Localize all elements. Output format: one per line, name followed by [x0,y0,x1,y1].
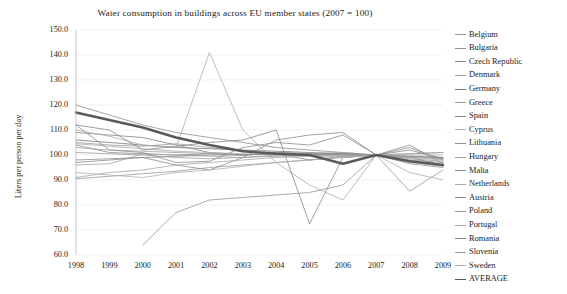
legend-item[interactable]: Cyprus [455,123,567,137]
legend-line-icon [455,75,466,76]
legend-label: Sweden [469,262,496,270]
series-lines [76,53,443,246]
legend-line-icon [455,143,466,144]
legend-label: Romania [469,235,499,243]
legend-label: Poland [469,207,492,215]
legend-line-icon [455,170,466,171]
y-tick-label: 110.0 [26,125,68,134]
legend-item[interactable]: Denmark [455,69,567,83]
legend-item[interactable]: Austria [455,191,567,205]
y-tick-label: 60.0 [26,250,68,259]
legend-line-icon [455,279,466,280]
legend-line-icon [455,157,466,158]
legend-line-icon [455,225,466,226]
legend-item[interactable]: Czech Republic [455,55,567,69]
y-tick-label: 80.0 [26,200,68,209]
legend-line-icon [455,116,466,117]
legend-label: Austria [469,194,494,202]
legend-item[interactable]: Greece [455,96,567,110]
legend-line-icon [455,265,466,266]
legend-label: Germany [469,85,500,93]
series-line [76,53,443,201]
legend-item[interactable]: Lithuania [455,137,567,151]
gridlines [76,30,443,255]
legend-label: Spain [469,112,488,120]
legend-line-icon [455,252,466,253]
y-tick-label: 130.0 [26,75,68,84]
legend-line-icon [455,61,466,62]
legend-label: Malta [469,167,489,175]
legend-line-icon [455,184,466,185]
legend-label: AVERAGE [469,275,508,283]
legend-line-icon [455,102,466,103]
chart-title: Water consumption in buildings across EU… [70,8,400,18]
legend-item[interactable]: Slovenia [455,246,567,260]
legend-line-icon [455,238,466,239]
legend-line-icon [455,129,466,130]
legend-item[interactable]: Malta [455,164,567,178]
legend-item[interactable]: AVERAGE [455,273,567,287]
legend-label: Lithuania [469,139,501,147]
legend-item[interactable]: Sweden [455,259,567,273]
legend-item[interactable]: Germany [455,82,567,96]
y-tick-label: 120.0 [26,100,68,109]
y-tick-label: 70.0 [26,225,68,234]
y-tick-label: 140.0 [26,50,68,59]
legend-item[interactable]: Spain [455,110,567,124]
y-axis-label: Liters per person per day [14,77,23,237]
y-tick-label: 100.0 [26,150,68,159]
legend-item[interactable]: Netherlands [455,178,567,192]
legend-line-icon [455,48,466,49]
legend-label: Hungary [469,153,498,161]
legend-label: Greece [469,99,493,107]
legend-line-icon [455,197,466,198]
legend-item[interactable]: Portugal [455,218,567,232]
legend-label: Bulgaria [469,44,498,52]
legend-label: Netherlands [469,180,509,188]
legend-label: Czech Republic [469,58,522,66]
legend-line-icon [455,211,466,212]
legend-item[interactable]: Bulgaria [455,42,567,56]
legend-label: Cyprus [469,126,493,134]
legend-item[interactable]: Hungary [455,150,567,164]
legend-label: Portugal [469,221,497,229]
legend-item[interactable]: Romania [455,232,567,246]
legend-label: Slovenia [469,248,498,256]
chart-legend: BelgiumBulgariaCzech RepublicDenmarkGerm… [455,28,567,286]
chart-figure: Water consumption in buildings across EU… [0,0,567,294]
legend-item[interactable]: Belgium [455,28,567,42]
y-tick-label: 90.0 [26,175,68,184]
legend-item[interactable]: Poland [455,205,567,219]
y-tick-label: 150.0 [26,25,68,34]
legend-line-icon [455,89,466,90]
series-line [143,155,443,245]
legend-label: Belgium [469,31,498,39]
legend-label: Denmark [469,71,500,79]
legend-line-icon [455,34,466,35]
